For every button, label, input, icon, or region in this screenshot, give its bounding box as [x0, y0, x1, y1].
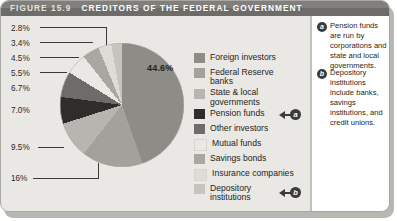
figure-title: FIGURE 15.9 CREDITORS OF THE FEDERAL GOV… — [10, 3, 303, 13]
legend-item-1[interactable]: Federal Reservebanks — [194, 67, 312, 87]
legend-item-7[interactable]: Insurance companies — [194, 168, 312, 182]
legend-item-label: Mutual funds — [212, 138, 261, 148]
legend-swatch-icon — [194, 139, 207, 151]
legend-item-label: State & localgovernments — [210, 88, 260, 108]
pct-label-44-6: 44.6% — [147, 63, 174, 73]
pct-label-3-4: 3.4% — [11, 39, 30, 48]
legend-swatch-icon — [194, 184, 205, 194]
pct-label-5-5: 5.5% — [11, 69, 30, 78]
legend-item-label: Savings bonds — [210, 153, 266, 163]
legend-swatch-icon — [194, 109, 205, 119]
legend-item-label: Depositoryinstitutions — [210, 183, 251, 203]
figure-title-bar: FIGURE 15.9 CREDITORS OF THE FEDERAL GOV… — [1, 1, 390, 16]
legend-item-2[interactable]: State & localgovernments — [194, 88, 312, 108]
pct-label-2-8: 2.8% — [11, 24, 30, 33]
legend-item-5[interactable]: Mutual funds — [194, 138, 312, 152]
legend-swatch-icon — [194, 154, 205, 164]
legend-item-label: Other investors — [210, 123, 268, 133]
legend-item-4[interactable]: Other investors — [194, 123, 312, 137]
legend-item-label: Federal Reservebanks — [210, 67, 274, 87]
pct-label-16: 16% — [11, 174, 27, 183]
note-marker-a: a — [317, 22, 327, 32]
legend-swatch-icon — [194, 169, 207, 181]
legend-swatch-icon — [194, 124, 205, 134]
pct-label-9-5: 9.5% — [11, 143, 30, 152]
callout-badge-a: a — [290, 109, 301, 120]
note-b: b Depository institutions include banks,… — [317, 68, 387, 128]
legend-swatch-icon — [194, 89, 205, 99]
note-marker-b: b — [317, 69, 327, 79]
chart-legend: Foreign investorsFederal ReservebanksSta… — [194, 52, 312, 204]
pct-label-7-0: 7.0% — [11, 106, 30, 115]
pct-label-6-7: 6.7% — [11, 84, 30, 93]
legend-swatch-icon — [194, 68, 205, 78]
figure-frame: FIGURE 15.9 CREDITORS OF THE FEDERAL GOV… — [0, 0, 390, 212]
legend-swatch-icon — [194, 53, 205, 63]
leader-line-16-h — [33, 178, 99, 179]
legend-item-label: Foreign investors — [210, 52, 276, 62]
legend-item-8[interactable]: Depositoryinstitutionsb — [194, 183, 312, 203]
pct-label-4-5: 4.5% — [11, 54, 30, 63]
note-a: a Pension funds are run by corporations … — [317, 21, 387, 71]
legend-callout-b: b — [279, 187, 301, 198]
legend-item-6[interactable]: Savings bonds — [194, 153, 312, 167]
figure-number: FIGURE 15.9 — [10, 3, 71, 13]
legend-item-3[interactable]: Pension fundsa — [194, 108, 312, 122]
note-text-a: Pension funds are run by corporations an… — [330, 21, 387, 71]
chart-panel: 2.8% 3.4% 4.5% 5.5% 6.7% 7.0% 9.5% 16% — [2, 16, 311, 212]
note-text-b: Depository institutions include banks, s… — [330, 68, 387, 128]
legend-item-label: Pension funds — [210, 108, 264, 118]
leader-line-2-8-h — [40, 27, 107, 28]
legend-item-0[interactable]: Foreign investors — [194, 52, 312, 66]
legend-item-label: Insurance companies — [212, 168, 294, 178]
notes-panel: a Pension funds are run by corporations … — [312, 16, 390, 212]
pie-slices — [60, 43, 184, 167]
figure-container: FIGURE 15.9 CREDITORS OF THE FEDERAL GOV… — [0, 0, 397, 221]
figure-title-text: CREDITORS OF THE FEDERAL GOVERNMENT — [81, 3, 302, 13]
pie-chart — [60, 43, 184, 167]
legend-callout-a: a — [279, 109, 301, 120]
callout-badge-b: b — [290, 187, 301, 198]
